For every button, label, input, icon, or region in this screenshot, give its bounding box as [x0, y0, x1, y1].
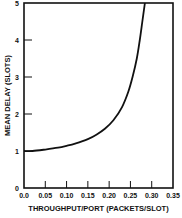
y-tick-label: 3: [15, 74, 19, 81]
x-tick-label: 0.25: [124, 192, 138, 199]
y-tick-label: 1: [15, 148, 19, 155]
y-tick-label: 2: [15, 111, 19, 118]
y-tick-label: 4: [15, 37, 19, 44]
x-tick-label: 0.10: [60, 192, 74, 199]
x-tick-label: 0.35: [166, 192, 180, 199]
x-axis-label: THROUGHPUT/PORT (PACKETS/SLOT): [28, 204, 169, 213]
x-tick-label: 0.30: [145, 192, 159, 199]
y-tick-label: 0: [15, 185, 19, 192]
y-axis-label: MEAN DELAY (SLOTS): [3, 55, 12, 136]
x-tick-label: 0.05: [38, 192, 52, 199]
x-ticks: 0.00.050.100.150.200.250.300.35: [19, 181, 180, 199]
x-tick-label: 0.0: [19, 192, 29, 199]
plot-frame: [24, 3, 173, 188]
series-line-mean-delay: [24, 3, 145, 151]
x-tick-label: 0.20: [102, 192, 116, 199]
x-tick-label: 0.15: [81, 192, 95, 199]
delay-throughput-chart: 012345 0.00.050.100.150.200.250.300.35 T…: [0, 0, 182, 218]
y-tick-label: 5: [15, 0, 19, 7]
